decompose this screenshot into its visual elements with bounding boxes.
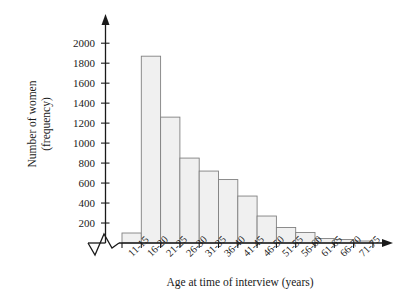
histogram-bar	[141, 56, 160, 243]
y-tick-label: 400	[55, 198, 95, 209]
y-tick-label: 1200	[55, 118, 95, 129]
y-tick-label: 800	[55, 158, 95, 169]
x-axis-title: Age at time of interview (years)	[110, 276, 370, 288]
y-tick-label: 200	[55, 218, 95, 229]
x-axis-break-zigzag	[88, 234, 119, 255]
y-tick-label: 1000	[55, 138, 95, 149]
y-tick-label: 1400	[55, 98, 95, 109]
histogram-bar	[219, 180, 238, 243]
histogram-figure: 200400600800100012001400160018002000 11-…	[0, 0, 413, 297]
y-axis-title: Number of women (frequency)	[25, 54, 53, 194]
x-axis-arrow	[382, 239, 393, 247]
histogram-bar	[180, 158, 199, 243]
bars-group	[122, 56, 373, 243]
histogram-bar	[161, 117, 180, 243]
y-tick-label: 1800	[55, 58, 95, 69]
y-tick-label: 1600	[55, 78, 95, 89]
y-axis-arrow	[102, 14, 110, 25]
y-tick-label: 2000	[55, 38, 95, 49]
histogram-bar	[199, 171, 218, 243]
y-tick-label: 600	[55, 178, 95, 189]
